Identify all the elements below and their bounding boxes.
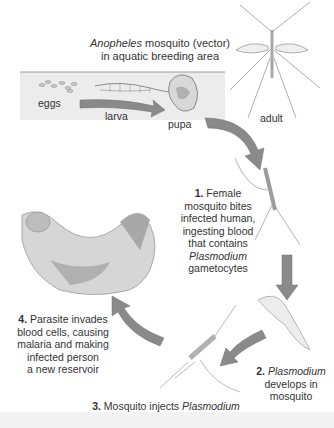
step-1-italic: Plasmodium <box>189 250 247 262</box>
arrow-to-step-3 <box>220 330 266 366</box>
adult-mosquito-icon <box>230 2 320 118</box>
step-1-number: 1. <box>195 187 204 199</box>
label-eggs: eggs <box>38 97 61 110</box>
step-3-text: Mosquito injects <box>101 400 182 412</box>
breeding-area-title: Anopheles mosquito (vector) in aquatic b… <box>85 37 235 62</box>
step-3-number: 3. <box>92 400 101 412</box>
step-1-tail: gametocytes <box>188 262 248 274</box>
label-larva: larva <box>105 110 128 123</box>
step-4-line: malaria and making <box>17 338 109 350</box>
step-1-line: that contains <box>188 237 248 249</box>
arrow-to-step-4 <box>112 296 164 346</box>
arrow-to-step-1 <box>205 118 264 170</box>
title-line2: in aquatic breeding area <box>101 50 219 62</box>
step-4-caption: 4. Parasite invades blood cells, causing… <box>12 313 114 376</box>
step-2-number: 2. <box>256 365 265 377</box>
step-1-line: ingesting blood <box>183 225 254 237</box>
title-italic: Anopheles <box>90 37 142 49</box>
title-rest: mosquito (vector) <box>142 37 230 49</box>
step-3-italic: Plasmodium <box>182 400 240 412</box>
step-4-line: infected person <box>27 351 99 363</box>
label-pupa: pupa <box>168 118 191 131</box>
arrow-to-step-2 <box>276 255 298 300</box>
step-4-line: a new reservoir <box>27 363 99 375</box>
step-4-line: blood cells, causing <box>17 326 109 338</box>
step-1-line: Female <box>206 187 241 199</box>
step-2-line: mosquito <box>270 390 313 402</box>
mosquito-gut-icon <box>258 296 310 350</box>
infected-human-illustration <box>22 212 155 295</box>
step-4-number: 4. <box>18 313 27 325</box>
step-1-line: infected human, <box>181 212 256 224</box>
label-adult: adult <box>260 112 283 125</box>
step-2-line: develops in <box>264 378 317 390</box>
step-1-caption: 1. Female mosquito bites infected human,… <box>180 187 256 275</box>
step-4-text: Parasite invades <box>27 313 108 325</box>
step-2-italic: Plasmodium <box>268 365 326 377</box>
injecting-mosquito-icon <box>160 305 240 392</box>
bottom-strip <box>0 412 334 428</box>
step-2-caption: 2. Plasmodium develops in mosquito <box>248 365 334 403</box>
step-1-line: mosquito bites <box>184 200 252 212</box>
